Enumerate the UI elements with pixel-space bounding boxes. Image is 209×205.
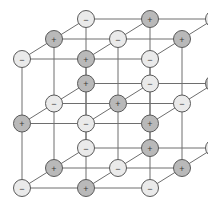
anion-circle bbox=[142, 51, 159, 68]
anion-circle bbox=[142, 75, 159, 92]
anion-ion: − bbox=[206, 11, 209, 28]
cation-ion: + bbox=[174, 31, 191, 48]
anion-ion: − bbox=[78, 115, 95, 132]
anion-ion: − bbox=[78, 140, 95, 157]
anion-ion: − bbox=[46, 95, 63, 112]
cation-circle bbox=[78, 51, 95, 68]
cation-circle bbox=[110, 95, 127, 112]
cation-circle bbox=[206, 75, 209, 92]
cation-circle bbox=[142, 140, 159, 157]
anion-circle bbox=[78, 115, 95, 132]
cation-ion: + bbox=[46, 160, 63, 177]
anion-ion: − bbox=[110, 160, 127, 177]
anion-ion: − bbox=[110, 31, 127, 48]
cation-circle bbox=[142, 115, 159, 132]
cation-ion: + bbox=[46, 31, 63, 48]
cation-ion: + bbox=[78, 51, 95, 68]
anion-ion: − bbox=[174, 95, 191, 112]
anion-circle bbox=[46, 95, 63, 112]
cation-circle bbox=[174, 160, 191, 177]
cation-circle bbox=[142, 11, 159, 28]
cation-ion: + bbox=[142, 140, 159, 157]
anion-circle bbox=[142, 180, 159, 197]
anion-circle bbox=[78, 11, 95, 28]
cation-circle bbox=[14, 115, 31, 132]
cation-ion: + bbox=[174, 160, 191, 177]
anion-circle bbox=[78, 140, 95, 157]
cation-ion: + bbox=[78, 75, 95, 92]
lattice-diagram: −+−+−+−+−+−+−+−+−+−+−+−+−+− bbox=[0, 0, 208, 205]
cation-ion: + bbox=[14, 115, 31, 132]
anion-circle bbox=[110, 31, 127, 48]
anion-circle bbox=[206, 140, 209, 157]
anion-ion: − bbox=[142, 75, 159, 92]
anion-circle bbox=[14, 180, 31, 197]
anion-circle bbox=[14, 51, 31, 68]
ion-group: −+−+−+−+−+−+−+−+−+−+−+−+−+− bbox=[14, 11, 209, 197]
anion-ion: − bbox=[14, 180, 31, 197]
ionic-lattice-figure: −+−+−+−+−+−+−+−+−+−+−+−+−+− bbox=[0, 0, 208, 205]
cation-ion: + bbox=[78, 180, 95, 197]
cation-ion: + bbox=[142, 11, 159, 28]
cation-circle bbox=[78, 180, 95, 197]
cation-circle bbox=[46, 160, 63, 177]
anion-ion: − bbox=[14, 51, 31, 68]
anion-circle bbox=[110, 160, 127, 177]
anion-ion: − bbox=[142, 51, 159, 68]
cation-circle bbox=[78, 75, 95, 92]
cation-circle bbox=[46, 31, 63, 48]
cation-ion: + bbox=[142, 115, 159, 132]
anion-ion: − bbox=[78, 11, 95, 28]
cation-ion: + bbox=[206, 75, 209, 92]
cation-ion: + bbox=[110, 95, 127, 112]
anion-circle bbox=[174, 95, 191, 112]
cation-circle bbox=[174, 31, 191, 48]
anion-ion: − bbox=[142, 180, 159, 197]
anion-ion: − bbox=[206, 140, 209, 157]
anion-circle bbox=[206, 11, 209, 28]
